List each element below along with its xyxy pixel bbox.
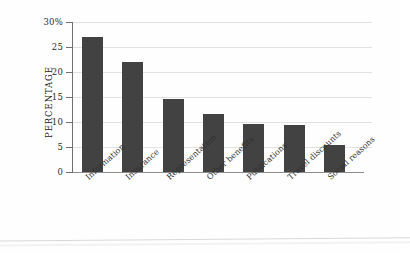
x-axis-tick-label: Insurance [124,147,161,181]
x-axis-tick-label: Publications [245,141,289,182]
y-axis-tick [66,72,72,73]
y-axis-tick [66,97,72,98]
y-axis-tick [66,22,72,23]
x-axis-tick-label: Information [84,142,127,182]
y-axis-tick [66,122,72,123]
y-axis-tick [66,47,72,48]
y-axis-tick [66,147,72,148]
y-axis-tick [66,172,72,173]
